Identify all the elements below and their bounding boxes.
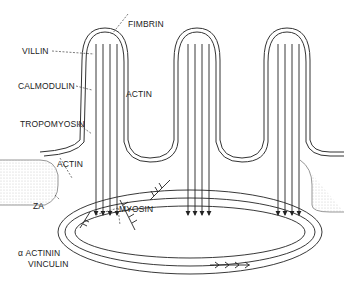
label-actin-web: ACTIN xyxy=(57,160,83,169)
label-alpha-actinin: α ACTININ xyxy=(18,249,60,258)
myosin-filaments xyxy=(80,180,250,268)
label-villin: VILLIN xyxy=(22,47,49,56)
actin-core-bundles xyxy=(96,44,299,215)
label-za: ZA xyxy=(33,202,44,211)
label-myosin: MYOSIN xyxy=(119,205,153,214)
label-vinculin: VINCULIN xyxy=(28,260,68,269)
label-fimbrin: FIMBRIN xyxy=(128,20,164,29)
label-actin-core: ACTIN xyxy=(126,90,152,99)
label-tropomyosin: TROPOMYOSIN xyxy=(20,120,85,129)
terminal-web-ring xyxy=(58,190,322,274)
label-calmodulin: CALMODULIN xyxy=(18,82,75,91)
